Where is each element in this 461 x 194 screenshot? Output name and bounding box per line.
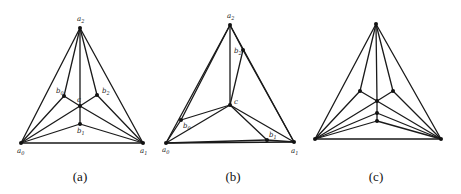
edge-a2-b2	[80, 28, 97, 95]
vertex-label-a1: a1	[291, 147, 298, 156]
vertex-label-a2: a2	[227, 12, 234, 21]
edge-a0-a2	[21, 28, 80, 143]
edge-br-m1	[377, 91, 393, 101]
vertex-c	[228, 103, 232, 107]
vertex-a2	[78, 26, 82, 30]
vertex-top	[374, 22, 378, 26]
edge-b0-c	[181, 105, 230, 120]
vertex-right	[439, 137, 443, 141]
caption-b: (b)	[225, 169, 240, 184]
vertex-m2	[375, 111, 379, 115]
edge-a0-b0	[166, 120, 181, 143]
figure-b: a2a0a1b2cb0b1(b)	[162, 12, 298, 184]
edge-bl-m1	[360, 91, 377, 101]
vertex-label-b1: b1	[77, 127, 85, 136]
vertex-m1	[375, 99, 379, 103]
vertex-m3	[375, 119, 379, 123]
diagram-canvas: a2a0a1b0b2cb1(a) a2a0a1b2cb0b1(b) (c)	[0, 0, 461, 194]
caption-a: (a)	[73, 169, 87, 184]
vertex-left	[313, 137, 317, 141]
edge-b2-a1	[243, 50, 294, 142]
vertex-b2	[95, 93, 99, 97]
vertex-b1	[78, 122, 82, 126]
vertex-label-b0: b0	[56, 87, 64, 96]
edge-a2-b0	[64, 28, 80, 96]
vertex-label-b2: b2	[234, 47, 242, 56]
vertex-label-b1: b1	[269, 131, 277, 140]
edge-top-m1	[376, 24, 377, 101]
edge-b2-c	[230, 50, 243, 105]
edge-top-bl	[360, 24, 376, 91]
edge-left-top	[315, 24, 376, 139]
vertex-label-a0: a0	[17, 147, 25, 156]
vertex-a1	[141, 141, 145, 145]
edge-b0-a2	[181, 25, 230, 120]
edge-top-br	[376, 24, 393, 91]
edge-right-top	[376, 24, 441, 139]
vertex-a1	[292, 140, 296, 144]
caption-c: (c)	[369, 169, 383, 184]
vertex-label-b2: b2	[102, 87, 110, 96]
vertex-label-c: c	[234, 98, 238, 106]
edge-left-m2	[315, 113, 377, 139]
edge-right-m2	[377, 113, 441, 139]
vertex-label-b0: b0	[183, 122, 191, 131]
vertex-c	[78, 104, 82, 108]
vertex-bl	[358, 89, 362, 93]
vertex-label-a2: a2	[77, 15, 84, 24]
edge-a1-a2	[80, 28, 143, 143]
vertex-br	[391, 89, 395, 93]
vertex-a0	[19, 141, 23, 145]
vertex-label-c: c	[77, 96, 81, 104]
figure-a: a2a0a1b0b2cb1(a)	[17, 15, 147, 184]
figure-c: (c)	[313, 22, 443, 184]
edge-b2-c	[80, 95, 97, 106]
vertex-label-a0: a0	[162, 146, 170, 155]
vertex-label-a1: a1	[140, 147, 147, 156]
vertex-a2	[228, 23, 232, 27]
vertex-a0	[164, 141, 168, 145]
